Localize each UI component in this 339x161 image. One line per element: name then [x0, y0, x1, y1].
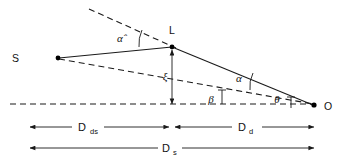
dim-label-ds: D s [162, 142, 177, 157]
lens-geometry-figure: S L O α̂ α β θ ξ D [0, 0, 339, 161]
alpha-arc [250, 73, 253, 90]
lens-label: L [169, 24, 175, 36]
lens-diagram-canvas: S L O α̂ α β θ ξ D [0, 0, 339, 161]
alpha-label: α [236, 72, 242, 84]
dd-base: D [238, 121, 246, 133]
angle-labels: α̂ α β θ [117, 32, 280, 105]
source-label: S [12, 52, 19, 64]
ds-base: D [162, 142, 170, 154]
ray-source-to-lens [59, 47, 172, 58]
alpha-hat-arc [139, 30, 142, 47]
dim-label-dd: D d [238, 121, 253, 136]
xi-label: ξ [163, 70, 168, 83]
beta-label: β [207, 93, 214, 105]
dimension-labels: D ds D d D s [78, 121, 253, 157]
dim-label-dds: D ds [78, 121, 98, 136]
dds-subscript: ds [90, 127, 98, 136]
observer-point-dot [311, 102, 316, 107]
dds-base: D [78, 121, 86, 133]
ray-lens-to-observer [172, 47, 313, 105]
dashed-ray-extension [89, 9, 176, 48]
observer-label: O [324, 100, 332, 112]
lens-point-dot [170, 45, 175, 50]
theta-label: θ [274, 93, 280, 105]
dd-subscript: d [249, 127, 253, 136]
source-point-dot [56, 56, 61, 61]
alpha-hat-label: α̂ [117, 32, 128, 44]
ds-subscript: s [173, 148, 177, 157]
